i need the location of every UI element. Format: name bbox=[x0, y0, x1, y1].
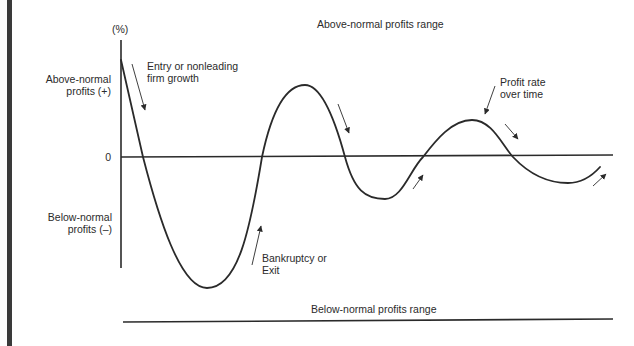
above-range-label: Above-normal profits range bbox=[317, 18, 444, 30]
y-label-below: Below-normal profits (–) bbox=[30, 211, 112, 235]
entry-annotation-line1: Entry or nonleading bbox=[147, 60, 238, 72]
entry-annotation: Entry or nonleading firm growth bbox=[147, 60, 238, 84]
profit-rate-arrow-icon bbox=[485, 86, 495, 114]
y-label-above: Above-normal profits (+) bbox=[30, 73, 111, 97]
profit-rate-annotation-line2: over time bbox=[500, 88, 546, 100]
bankruptcy-annotation: Bankruptcy or Exit bbox=[262, 252, 327, 276]
downswing-arrow-icon-1 bbox=[338, 104, 349, 133]
y-label-zero: 0 bbox=[90, 151, 111, 163]
downswing-arrow-icon-2 bbox=[505, 124, 518, 139]
bankruptcy-annotation-line1: Bankruptcy or bbox=[262, 252, 327, 264]
zero-line bbox=[121, 155, 613, 157]
entry-arrow-icon bbox=[132, 64, 145, 110]
below-range-label: Below-normal profits range bbox=[311, 303, 436, 315]
bankruptcy-annotation-line2: Exit bbox=[262, 264, 327, 276]
y-label-above-line2: profits (+) bbox=[30, 85, 111, 97]
profit-rate-annotation: Profit rate over time bbox=[500, 76, 546, 100]
unit-label: (%) bbox=[112, 23, 128, 35]
y-label-above-line1: Above-normal bbox=[30, 73, 111, 85]
profit-cycle-diagram bbox=[0, 0, 634, 346]
upswing-arrow-icon-2 bbox=[593, 174, 606, 186]
profit-rate-annotation-line1: Profit rate bbox=[500, 76, 546, 88]
y-label-below-line2: profits (–) bbox=[30, 223, 112, 235]
bankruptcy-arrow-icon bbox=[252, 226, 261, 265]
below-range-line bbox=[123, 319, 613, 322]
y-label-below-line1: Below-normal bbox=[30, 211, 112, 223]
entry-annotation-line2: firm growth bbox=[147, 72, 238, 84]
upswing-arrow-icon-1 bbox=[413, 175, 423, 189]
